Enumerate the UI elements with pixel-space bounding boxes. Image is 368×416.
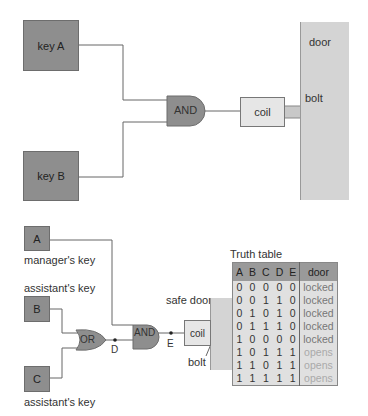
cell: 1 — [273, 372, 287, 386]
header-door: door — [300, 263, 337, 282]
cell: 0 — [233, 281, 247, 294]
node-d-label: D — [111, 344, 118, 355]
table-row: 01010locked — [233, 307, 338, 320]
cell: 0 — [286, 281, 300, 294]
cell: 0 — [233, 320, 247, 333]
key-a-label: key A — [38, 40, 65, 52]
door-cell: locked — [300, 294, 337, 307]
table-row: 10111opens — [233, 346, 338, 359]
cell: 0 — [246, 294, 259, 307]
coil-bottom: coil — [184, 320, 211, 346]
table-row: 10000locked — [233, 333, 338, 346]
cell: 1 — [273, 346, 287, 359]
key-c-small-label: C — [33, 373, 41, 385]
cell: 0 — [286, 333, 300, 346]
key-b-box: key B — [23, 151, 79, 201]
cell: 1 — [286, 372, 300, 386]
door-cell: locked — [300, 307, 337, 320]
cell: 0 — [259, 333, 273, 346]
cell: 1 — [273, 307, 287, 320]
door-cell: opens — [300, 372, 337, 386]
truth-table: A B C D E door 00000locked 00110locked 0… — [232, 262, 338, 386]
cell: 1 — [273, 320, 287, 333]
header-d: D — [273, 263, 287, 282]
cell: 0 — [233, 294, 247, 307]
door-cell: opens — [300, 346, 337, 359]
table-row: 11111opens — [233, 372, 338, 386]
cell: 0 — [259, 307, 273, 320]
cell: 1 — [259, 346, 273, 359]
cell: 1 — [273, 359, 287, 372]
key-b-label: key B — [37, 170, 65, 182]
door-cell: locked — [300, 333, 337, 346]
coil-bottom-label: coil — [190, 328, 205, 339]
bolt-top-label: bolt — [305, 92, 323, 104]
cell: 1 — [286, 359, 300, 372]
header-c: C — [259, 263, 273, 282]
cell: 1 — [233, 359, 247, 372]
cell: 0 — [273, 333, 287, 346]
key-c-small: C — [24, 366, 50, 392]
cell: 0 — [246, 346, 259, 359]
assistant-key-b-label: assistant's key — [24, 282, 95, 294]
door-cell: locked — [300, 320, 337, 333]
cell: 1 — [246, 372, 259, 386]
cell: 1 — [246, 359, 259, 372]
header-e: E — [286, 263, 300, 282]
table-row: 00110locked — [233, 294, 338, 307]
key-b-small: B — [24, 296, 50, 322]
cell: 0 — [286, 307, 300, 320]
key-a-box: key A — [23, 20, 79, 71]
truth-table-header: A B C D E door — [233, 263, 338, 282]
header-a: A — [233, 263, 247, 282]
cell: 1 — [259, 320, 273, 333]
cell: 1 — [246, 320, 259, 333]
cell: 1 — [246, 307, 259, 320]
table-row: 00000locked — [233, 281, 338, 294]
key-a-small: A — [24, 226, 50, 251]
table-row: 01110locked — [233, 320, 338, 333]
coil-top: coil — [240, 97, 285, 127]
cell: 0 — [233, 307, 247, 320]
key-b-small-label: B — [33, 303, 40, 315]
cell: 0 — [259, 359, 273, 372]
cell: 1 — [233, 346, 247, 359]
cell: 1 — [259, 372, 273, 386]
coil-top-label: coil — [254, 106, 271, 118]
cell: 0 — [273, 281, 287, 294]
door-cell: opens — [300, 359, 337, 372]
bolt-bottom-label: bolt — [188, 356, 206, 368]
table-row: 11011opens — [233, 359, 338, 372]
or-gate-label: OR — [80, 334, 95, 345]
cell: 1 — [259, 294, 273, 307]
truth-table-title: Truth table — [230, 248, 282, 260]
safe-door-label: safe door — [166, 294, 212, 306]
cell: 0 — [246, 333, 259, 346]
node-e-label: E — [167, 338, 174, 349]
cell: 1 — [273, 294, 287, 307]
managers-key-label: manager's key — [24, 254, 95, 266]
cell: 0 — [286, 294, 300, 307]
door — [300, 22, 349, 200]
cell: 0 — [246, 281, 259, 294]
door-cell: locked — [300, 281, 337, 294]
key-a-small-label: A — [33, 233, 40, 245]
and-gate-bottom-label: AND — [134, 327, 155, 338]
and-gate-top-label: AND — [174, 104, 197, 116]
cell: 1 — [233, 333, 247, 346]
cell: 0 — [286, 320, 300, 333]
header-b: B — [246, 263, 259, 282]
cell: 0 — [259, 281, 273, 294]
safe-door — [210, 298, 232, 370]
assistant-key-c-label: assistant's key — [24, 396, 95, 408]
cell: 1 — [233, 372, 247, 386]
cell: 1 — [286, 346, 300, 359]
door-label: door — [309, 36, 331, 48]
